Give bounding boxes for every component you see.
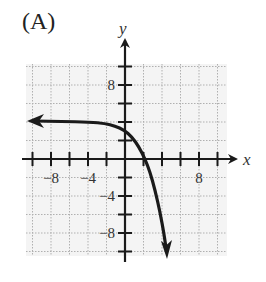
y-tick-label: −4 bbox=[99, 188, 115, 204]
x-tick-label: −8 bbox=[43, 170, 59, 186]
y-axis-label: y bbox=[117, 19, 127, 38]
x-tick-label: 8 bbox=[195, 170, 203, 186]
y-tick-label: −8 bbox=[99, 225, 115, 241]
y-tick-label: 8 bbox=[108, 77, 116, 93]
x-axis-label: x bbox=[242, 150, 251, 169]
x-tick-label: −4 bbox=[80, 170, 96, 186]
graph: −8−488−4−8 x y bbox=[0, 0, 266, 282]
